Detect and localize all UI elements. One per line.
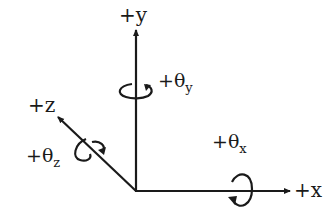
y-rotation-label: +θy <box>158 69 193 95</box>
y-axis-label: +y <box>119 3 148 27</box>
x-axis-label: +x <box>294 178 323 202</box>
axes-diagram: +y +θy +z +θz +θx +x <box>0 0 334 220</box>
x-rotation-label: +θx <box>212 130 247 156</box>
z-axis-label: +z <box>28 93 55 117</box>
z-rotation-label: +θz <box>26 144 60 170</box>
z-axis <box>58 117 136 191</box>
